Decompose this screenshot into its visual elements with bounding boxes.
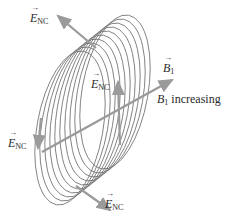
e-nc-label-left: ENC bbox=[8, 137, 26, 151]
e-nc-label-top: ENC bbox=[30, 12, 48, 26]
e-nc-label-bottom: ENC bbox=[105, 198, 123, 212]
b1-increasing-caption: B1 increasing bbox=[157, 93, 221, 107]
e-nc-label-middle: ENC bbox=[91, 78, 109, 92]
coil-loops bbox=[24, 9, 161, 210]
e-left-arrow bbox=[38, 118, 41, 148]
coil-drawing bbox=[0, 0, 235, 223]
e-top-arrow bbox=[58, 16, 96, 48]
b1-vector-label: B1 bbox=[163, 62, 174, 76]
